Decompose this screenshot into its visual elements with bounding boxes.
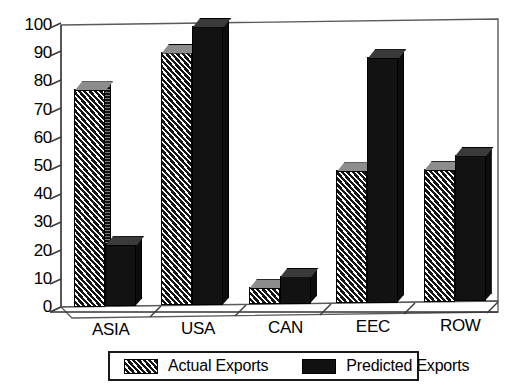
x-axis-tick-labels: ASIAUSACANEECROW xyxy=(0,0,528,391)
x-axis-tick-asia: ASIA xyxy=(69,321,152,338)
legend-entry-actual-exports: Actual Exports xyxy=(124,358,268,374)
chart-legend: Actual Exports Predicted Exports xyxy=(108,351,419,381)
legend-swatch-hatched-icon xyxy=(124,359,158,374)
x-axis-tick-can: CAN xyxy=(244,319,327,336)
x-axis-tick-usa: USA xyxy=(156,320,239,337)
legend-swatch-solid-icon xyxy=(302,359,336,374)
legend-label-predicted: Predicted Exports xyxy=(346,358,469,374)
legend-label-actual: Actual Exports xyxy=(168,358,268,374)
legend-entry-predicted-exports: Predicted Exports xyxy=(302,358,469,374)
x-axis-tick-row: ROW xyxy=(419,317,502,334)
x-axis-tick-eec: EEC xyxy=(331,318,414,335)
bar-chart: 0102030405060708090100 xyxy=(0,0,528,391)
